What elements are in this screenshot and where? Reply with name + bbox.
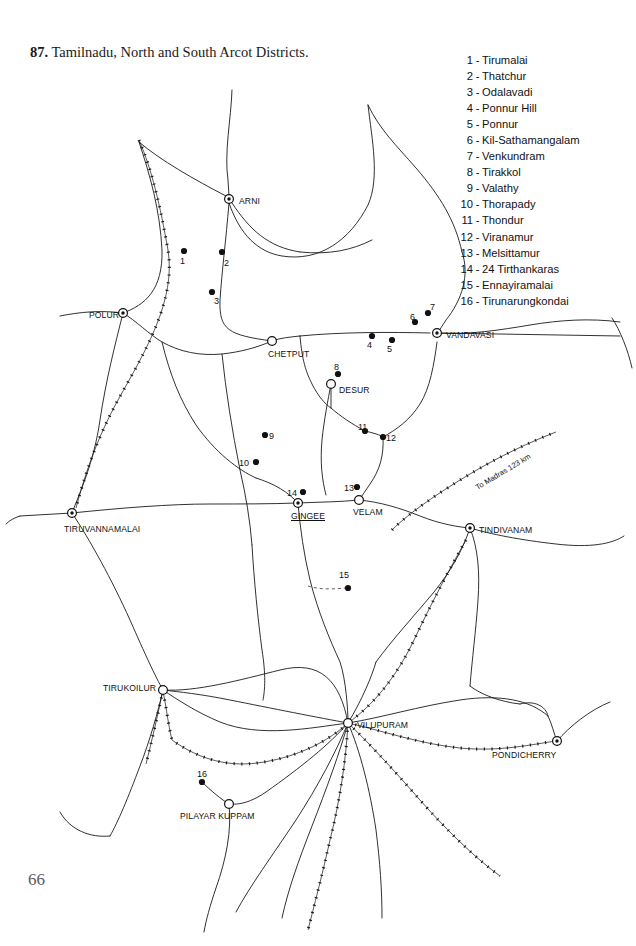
city-marker[interactable] bbox=[466, 524, 475, 533]
site-dot[interactable] bbox=[354, 484, 360, 490]
site-dot[interactable] bbox=[219, 249, 225, 255]
city-label: ARNI bbox=[239, 196, 260, 206]
site-number-label: 6 bbox=[410, 312, 415, 322]
site-dot[interactable] bbox=[209, 289, 215, 295]
city-marker-center-dot bbox=[121, 311, 124, 314]
site-number-label: 15 bbox=[339, 570, 349, 580]
dashed-track bbox=[308, 586, 346, 589]
city-marker[interactable] bbox=[268, 337, 277, 346]
city-marker[interactable] bbox=[68, 509, 77, 518]
site-dot[interactable] bbox=[262, 432, 268, 438]
city-marker[interactable] bbox=[225, 195, 234, 204]
site-number-label: 11 bbox=[358, 422, 367, 432]
site-number-label: 7 bbox=[430, 302, 435, 312]
city-marker-ring bbox=[355, 496, 364, 505]
city-marker[interactable] bbox=[294, 499, 303, 508]
railway-ticks bbox=[76, 140, 556, 930]
city-marker[interactable] bbox=[119, 309, 128, 318]
city-marker[interactable] bbox=[355, 496, 364, 505]
city-marker-center-dot bbox=[227, 197, 230, 200]
city-marker[interactable] bbox=[433, 329, 442, 338]
city-label: VELAM bbox=[353, 507, 383, 517]
city-marker-ring bbox=[327, 380, 336, 389]
city-label: POLUR bbox=[89, 310, 119, 320]
site-number-label: 4 bbox=[367, 340, 372, 350]
city-label: PONDICHERRY bbox=[492, 750, 556, 760]
city-marker-ring bbox=[159, 686, 168, 695]
page-canvas: 87. Tamilnadu, North and South Arcot Dis… bbox=[0, 0, 636, 946]
city-marker-ring bbox=[268, 337, 277, 346]
site-number-label: 3 bbox=[214, 296, 219, 306]
city-label: VANDAVASI bbox=[446, 330, 494, 340]
city-marker[interactable] bbox=[327, 380, 336, 389]
city-label: TINDIVANAM bbox=[479, 525, 532, 535]
site-dot[interactable] bbox=[345, 585, 351, 591]
site-number-label: 2 bbox=[224, 258, 229, 268]
city-marker-center-dot bbox=[70, 511, 73, 514]
map-drawing bbox=[0, 0, 636, 946]
site-number-label: 16 bbox=[197, 769, 207, 779]
city-marker[interactable] bbox=[159, 686, 168, 695]
city-marker-center-dot bbox=[296, 501, 299, 504]
site-number-label: 13 bbox=[344, 483, 354, 493]
page-number: 66 bbox=[28, 870, 45, 890]
site-dot[interactable] bbox=[389, 337, 395, 343]
city-marker-center-dot bbox=[468, 526, 471, 529]
city-label: DESUR bbox=[339, 385, 370, 395]
city-label: TIRUVANNAMALAI bbox=[64, 524, 140, 534]
city-label: GINGEE bbox=[291, 511, 325, 521]
city-marker-ring bbox=[344, 719, 353, 728]
site-dot[interactable] bbox=[181, 248, 187, 254]
city-marker[interactable] bbox=[225, 800, 234, 809]
site-dot[interactable] bbox=[300, 489, 306, 495]
city-label: PILAYAR KUPPAM bbox=[180, 811, 254, 821]
city-marker-center-dot bbox=[435, 331, 438, 334]
railway-lines bbox=[76, 140, 556, 930]
site-number-label: 14 bbox=[287, 488, 297, 498]
city-label: TIRUKOILUR bbox=[103, 683, 156, 693]
site-number-label: 1 bbox=[180, 256, 185, 266]
site-number-label: 12 bbox=[386, 433, 396, 443]
site-dot[interactable] bbox=[369, 333, 375, 339]
site-number-label: 5 bbox=[387, 344, 392, 354]
site-number-label: 8 bbox=[334, 362, 339, 372]
site-number-label: 9 bbox=[269, 431, 274, 441]
site-number-label: 10 bbox=[239, 458, 249, 468]
site-dot[interactable] bbox=[199, 779, 205, 785]
site-dot[interactable] bbox=[253, 459, 259, 465]
city-label: CHETPUT bbox=[268, 349, 309, 359]
city-marker[interactable] bbox=[553, 737, 562, 746]
city-marker-center-dot bbox=[555, 739, 558, 742]
city-marker[interactable] bbox=[344, 719, 353, 728]
city-marker-ring bbox=[225, 800, 234, 809]
city-label: VILUPURAM bbox=[357, 720, 408, 730]
